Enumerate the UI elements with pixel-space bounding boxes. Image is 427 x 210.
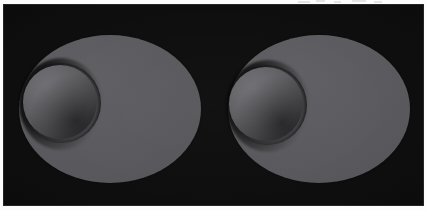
scan-speck	[298, 1, 310, 3]
render-scene-right	[214, 4, 424, 206]
scan-speck	[352, 0, 366, 2]
scan-speck	[316, 0, 325, 2]
render-scene-left	[3, 4, 214, 206]
shaded-sphere	[23, 65, 97, 139]
scan-speck	[334, 1, 341, 3]
rendered-figure-plate	[3, 4, 424, 206]
shaded-sphere	[229, 67, 303, 141]
scan-sheet	[0, 0, 427, 210]
scan-speck	[374, 1, 382, 3]
